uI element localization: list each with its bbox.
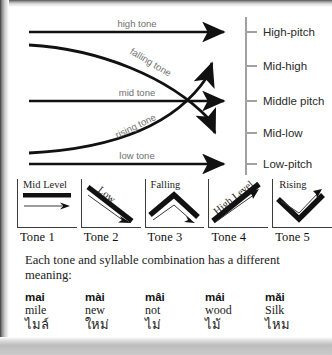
label-low-tone: low tone: [119, 150, 154, 161]
word-column-3: mâi not ไม่: [145, 291, 205, 332]
tone-box-5: Rising Tone 5: [272, 179, 332, 247]
tone-art-rising: Rising: [272, 179, 332, 228]
word-thai-script: ไม้: [205, 317, 265, 332]
word-column-1: mai mile ไมล์: [25, 291, 85, 332]
tone-box-1: Mid Level Tone 1: [17, 179, 77, 247]
page-edge-top: [0, 0, 332, 7]
rising-tone-curve: [29, 63, 212, 153]
mid-level-bar: [23, 193, 71, 198]
pitch-label-mid-low: Mid-low: [263, 127, 303, 139]
label-mid-tone: mid tone: [119, 87, 155, 98]
scanned-page: high tone falling tone mid tone rising t…: [0, 0, 332, 355]
tone-box-3: Falling Tone 3: [145, 179, 205, 247]
pitch-label-mid-high: Mid-high: [263, 60, 307, 72]
pitch-label-low-pitch: Low-pitch: [263, 158, 312, 170]
word-thai-script: ไม่: [145, 317, 205, 332]
rising-chevron: [278, 195, 323, 219]
page-edge-left: [0, 0, 9, 355]
word-column-5: mǎi Silk ไหม: [265, 291, 325, 332]
pitch-label-high-pitch: High-pitch: [263, 26, 315, 38]
label-falling-tone: falling tone: [128, 45, 173, 78]
tone-caption-4: Tone 4: [208, 228, 268, 245]
word-gloss: new: [85, 304, 145, 317]
word-gloss: wood: [205, 304, 265, 317]
word-column-2: mài new ใหม่: [85, 291, 145, 332]
tone-word-5: Rising: [279, 180, 306, 191]
word-gloss: not: [145, 304, 205, 317]
word-column-4: mái wood ไม้: [205, 291, 265, 332]
word-thai-script: ใหม่: [85, 317, 145, 332]
tone-box-4: High Level Tone 4: [208, 179, 268, 247]
explanatory-paragraph: Each tone and syllable combination has a…: [25, 253, 320, 283]
falling-chevron: [150, 195, 198, 217]
tone-word-1: Mid Level: [23, 180, 67, 191]
tone-box-2: Low Tone 2: [81, 179, 141, 247]
word-thai-script: ไหม: [265, 317, 325, 332]
label-high-tone: high tone: [117, 18, 156, 29]
word-examples-table: mai mile ไมล์ mài new ใหม่ mâi not ไม่ m…: [25, 291, 325, 332]
tone-art-low: Low: [81, 179, 141, 228]
tone-art-high-level: High Level: [208, 179, 268, 228]
pitch-contour-diagram: high tone falling tone mid tone rising t…: [9, 7, 332, 179]
tone-shape-strip: Mid Level Tone 1 Low Tone 2: [17, 179, 332, 247]
tone-art-falling: Falling: [145, 179, 205, 228]
word-gloss: mile: [25, 304, 85, 317]
word-thai-script: ไมล์: [25, 317, 85, 332]
tone-caption-3: Tone 3: [145, 228, 205, 245]
tone-caption-2: Tone 2: [81, 228, 141, 245]
tone-caption-5: Tone 5: [272, 228, 332, 245]
page-content: high tone falling tone mid tone rising t…: [9, 7, 332, 337]
tone-word-3: Falling: [151, 180, 181, 191]
tone-art-mid-level: Mid Level: [17, 179, 77, 228]
page-edge-bottom: [0, 337, 332, 355]
pitch-label-middle-pitch: Middle pitch: [263, 95, 324, 107]
tone-caption-1: Tone 1: [17, 228, 77, 245]
word-gloss: Silk: [265, 304, 325, 317]
